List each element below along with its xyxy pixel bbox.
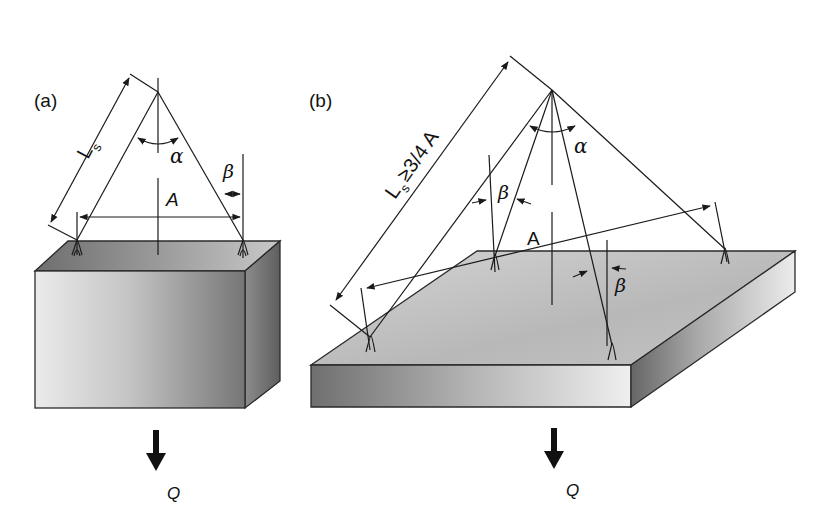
block-front-face: [35, 271, 245, 408]
ls-extension-top: [130, 74, 158, 92]
load-arrow-b: [544, 428, 564, 469]
alpha-label-b: α: [574, 134, 588, 158]
sling-leg-left: [77, 92, 158, 240]
plate-front-face: [311, 365, 631, 407]
svg-text:≥3/4 A: ≥3/4 A: [392, 126, 443, 186]
ls-extension-bottom: [48, 225, 77, 240]
alpha-label: α: [170, 144, 184, 168]
beta-label-2: β: [614, 274, 626, 296]
panel-b-label: (b): [309, 90, 332, 111]
load-arrow-a: [146, 430, 166, 471]
plate-load: [311, 251, 795, 407]
sling-leg-back-left: [495, 90, 552, 256]
load-label-a: Q: [167, 484, 180, 503]
panel-a-label: (a): [34, 90, 57, 111]
block-side-face: [245, 241, 280, 408]
load-label-b: Q: [566, 481, 579, 500]
ls-label: L s: [72, 135, 105, 164]
panel-a: (a) L s α β: [34, 74, 280, 503]
beta-label-1: β: [497, 181, 509, 203]
beta-arrow-1-right: [517, 199, 531, 204]
ls-extension-top-b: [510, 56, 552, 90]
block-load: [35, 241, 280, 408]
a-span-label-b: A: [527, 228, 540, 249]
a-span-label: A: [165, 189, 179, 210]
beta-label: β: [222, 160, 234, 182]
sling-diagram: (a) L s α β: [0, 0, 833, 531]
sling-leg-back-right: [552, 90, 725, 249]
panel-b: (b) L s ≥3/4 A: [309, 56, 795, 500]
beta-arrow-1-left: [472, 200, 486, 203]
